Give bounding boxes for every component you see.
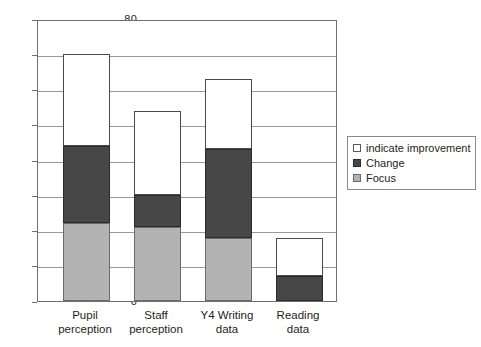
- legend-swatch-improve-icon: [353, 144, 361, 152]
- legend-item-label: Focus: [366, 172, 396, 184]
- x-tick-label-line: Reading: [243, 308, 353, 322]
- bar-segment-focus[interactable]: [134, 227, 181, 301]
- legend-item[interactable]: Change: [353, 156, 471, 170]
- bar-group[interactable]: [205, 19, 252, 301]
- bar-group[interactable]: [276, 19, 323, 301]
- bar-segment-improve[interactable]: [63, 54, 110, 146]
- legend-item-label: indicate improvement: [366, 142, 471, 154]
- legend-swatch-focus-icon: [353, 174, 361, 182]
- plot-area: [37, 20, 337, 302]
- x-tick-label: Readingdata: [243, 308, 353, 336]
- bar-segment-focus[interactable]: [63, 223, 110, 301]
- bar-segment-change[interactable]: [276, 276, 323, 301]
- bar-segment-focus[interactable]: [205, 238, 252, 301]
- legend-item[interactable]: indicate improvement: [353, 141, 471, 155]
- bar-segment-improve[interactable]: [276, 238, 323, 277]
- bar-group[interactable]: [63, 19, 110, 301]
- legend-item[interactable]: Focus: [353, 171, 471, 185]
- legend-swatch-change-icon: [353, 159, 361, 167]
- bar-segment-improve[interactable]: [134, 111, 181, 196]
- legend: indicate improvementChangeFocus: [347, 136, 476, 190]
- bar-segment-improve[interactable]: [205, 79, 252, 150]
- bar-segment-change[interactable]: [63, 146, 110, 224]
- stacked-bar-chart: 01020304050607080 PupilperceptionStaffpe…: [0, 0, 481, 347]
- bar-segment-change[interactable]: [205, 149, 252, 237]
- legend-item-label: Change: [366, 157, 405, 169]
- bar-group[interactable]: [134, 19, 181, 301]
- x-tick-label-line: data: [243, 322, 353, 336]
- bar-segment-change[interactable]: [134, 195, 181, 227]
